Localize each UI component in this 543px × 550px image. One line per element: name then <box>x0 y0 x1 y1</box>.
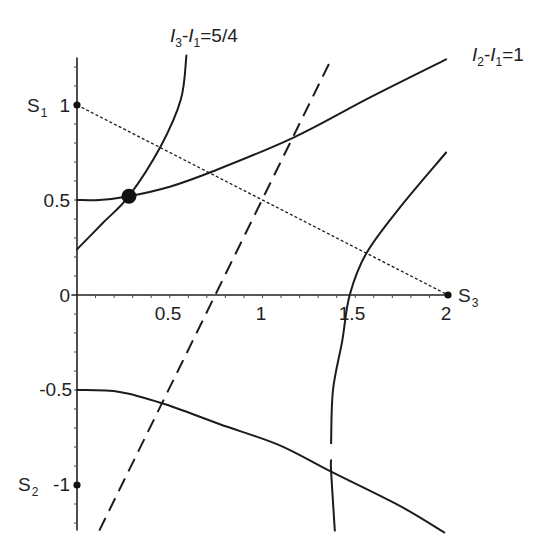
point-s2 <box>73 481 80 488</box>
point-label-s3: S3 <box>458 285 479 310</box>
point-label-s2: S2 <box>18 474 39 499</box>
x-tick-label: 1.5 <box>339 303 365 324</box>
y-tick-label: 0 <box>59 285 70 306</box>
dashed-line <box>99 63 329 530</box>
x-tick-label: 1 <box>256 303 267 324</box>
point-label-s1: S1 <box>27 95 48 120</box>
curves <box>77 56 448 533</box>
y-tick-label: -1 <box>53 474 70 495</box>
point-s3 <box>444 291 451 298</box>
curve <box>331 460 335 530</box>
point-s1 <box>73 101 80 108</box>
point-intersection <box>121 189 136 204</box>
curve <box>331 153 446 444</box>
y-tick-label: -0.5 <box>39 379 72 400</box>
axes <box>71 58 448 531</box>
y-tick-label: 1 <box>59 95 70 116</box>
curve-label-i3-i1: I3-I1=5/4 <box>170 25 238 50</box>
curve <box>77 390 444 533</box>
x-tick-label: 0.5 <box>155 303 181 324</box>
plot-canvas: 1 0.5 0 -0.5 -1 0.5 1 1.5 2 S1 S2 S3 I3-… <box>0 0 543 550</box>
y-tick-label: 0.5 <box>44 190 70 211</box>
y-tick-labels: 1 0.5 0 -0.5 -1 <box>39 95 72 495</box>
curve-label-i2-i1: I2-I1=1 <box>472 44 524 69</box>
curve <box>77 59 446 200</box>
x-tick-labels: 0.5 1 1.5 2 <box>155 303 452 324</box>
x-tick-label: 2 <box>441 303 452 324</box>
